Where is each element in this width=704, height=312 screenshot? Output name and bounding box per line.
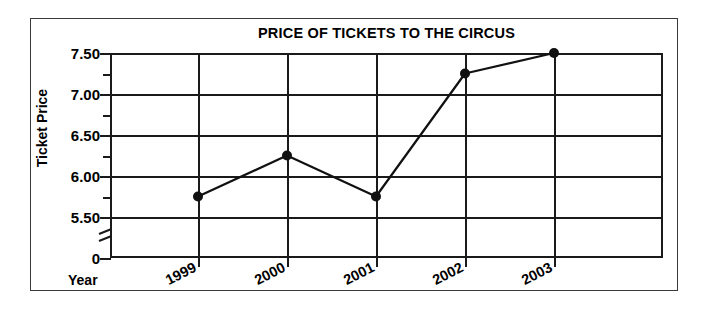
gridline-h-650 [112, 135, 661, 137]
y-tick-label-550: 5.50 [48, 210, 100, 225]
x-tick-2003 [554, 258, 556, 267]
gridline-v-2003 [554, 55, 556, 256]
plot-area [110, 53, 663, 258]
gridline-v-1999 [198, 55, 200, 256]
gridline-h-550 [112, 217, 661, 219]
gridline-v-2000 [287, 55, 289, 256]
x-tick-2001 [376, 258, 378, 267]
y-tick-label-0: 0 [48, 251, 100, 266]
x-axis-title: Year [68, 272, 98, 288]
x-tick-1999 [198, 258, 200, 267]
y-tick-label-650: 6.50 [48, 128, 100, 143]
x-tick-2002 [465, 258, 467, 267]
y-major-tick-0 [100, 258, 111, 260]
y-tick-label-750: 7.50 [48, 46, 100, 61]
y-tick-label-600: 6.00 [48, 169, 100, 184]
gridline-v-2002 [465, 55, 467, 256]
gridline-h-700 [112, 94, 661, 96]
x-tick-2000 [287, 258, 289, 267]
chart-title: PRICE OF TICKETS TO THE CIRCUS [110, 24, 663, 42]
y-tick-label-700: 7.00 [48, 87, 100, 102]
chart-figure: PRICE OF TICKETS TO THE CIRCUS Ticket Pr… [0, 0, 704, 312]
gridline-v-2001 [376, 55, 378, 256]
gridline-h-600 [112, 176, 661, 178]
